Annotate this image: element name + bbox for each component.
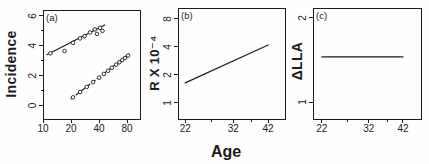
panel-b-x-tick-label: 32 xyxy=(228,123,240,134)
upper-observed-points-marker xyxy=(49,52,53,56)
panel-a-x-tick-label: 20 xyxy=(65,123,77,134)
lower-observed-points-marker xyxy=(97,76,101,80)
panel-label-a: (a) xyxy=(46,12,58,23)
relative-risk-line xyxy=(185,45,268,83)
panel-a-y-tick-label: 0 xyxy=(28,102,39,108)
panel-b-y-tick-label: 1 xyxy=(163,100,174,106)
lower-observed-points-marker xyxy=(110,66,114,70)
upper-observed-points-marker xyxy=(63,49,67,53)
panel-b-x-tick-label: 22 xyxy=(180,123,192,134)
upper-observed-points-marker xyxy=(95,32,99,36)
panel-b-frame xyxy=(178,8,285,119)
panel-c-x-tick-label: 32 xyxy=(363,123,375,134)
panel-b-y-tick-label: 2 xyxy=(163,72,174,78)
panel-b-y-tick-label: 8 xyxy=(163,16,174,22)
panel-b-y-tick-label: 4 xyxy=(163,44,174,50)
panel-a-y-tick-label: 2 xyxy=(28,72,39,78)
lower-observed-points-marker xyxy=(126,54,130,58)
lower-observed-points-marker xyxy=(85,85,89,89)
panel-a-y-tick-label: 6 xyxy=(28,13,39,19)
panel-a-frame xyxy=(43,10,140,119)
lower-observed-points-marker xyxy=(78,90,82,94)
panel-a-x-tick-label: 40 xyxy=(94,123,106,134)
lower-observed-points-marker xyxy=(102,72,106,76)
y-axis-label-incidence: Incidence xyxy=(2,9,20,119)
lower-observed-points-marker xyxy=(91,80,95,84)
lower-observed-points-marker xyxy=(71,96,75,100)
y-axis-label-delta-lla: ΔLLA xyxy=(288,6,306,116)
panel-b-x-tick-label: 42 xyxy=(263,123,275,134)
panel-c-x-tick-label: 22 xyxy=(316,123,328,134)
three-panel-figure: 102040800246223242124822324212 Incidence… xyxy=(0,0,429,164)
lower-observed-points-marker xyxy=(106,69,110,73)
plot-canvas: 102040800246223242124822324212 xyxy=(0,0,429,164)
panel-label-b: (b) xyxy=(181,10,193,21)
panel-c-x-tick-label: 42 xyxy=(397,123,409,134)
upper-observed-points-marker xyxy=(78,37,82,41)
panel-a-y-tick-label: 4 xyxy=(28,43,39,49)
y-axis-label-relative-risk: R X 10⁻⁴ xyxy=(146,8,164,118)
panel-a-x-tick-label: 10 xyxy=(37,123,49,134)
upper-observed-points-marker xyxy=(71,41,75,45)
upper-observed-points-marker xyxy=(88,31,92,35)
panel-c-frame xyxy=(313,8,421,119)
x-axis-label-age: Age xyxy=(196,143,256,161)
panel-a-x-tick-label: 80 xyxy=(122,123,134,134)
upper-observed-points-marker xyxy=(101,29,105,33)
upper-observed-points-marker xyxy=(83,34,87,38)
panel-label-c: (c) xyxy=(316,10,327,21)
upper-observed-points-marker xyxy=(93,28,97,32)
